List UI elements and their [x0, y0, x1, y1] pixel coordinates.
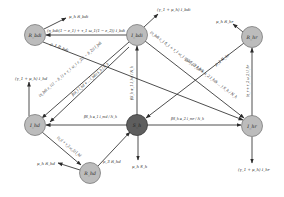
label-ihr-to-rhr: (η_r + τ_2 ω_2) I_hr	[245, 64, 250, 97]
label-sh-to-ihr: βS_h α_2 I_mr / N_h	[170, 116, 204, 121]
node-rbdi: R_bdi	[25, 25, 46, 46]
label-ibdi-out: (γ_1 + μ_h) I_bdi	[157, 7, 191, 12]
label-ihd-out: (γ_1 + μ_h) I_hd	[15, 76, 48, 81]
label-sh-to-ibdi-vert: βS_h α_1 I_hd / N_h	[129, 66, 134, 101]
node-rhr: R_hr	[242, 27, 263, 48]
node-sh: S_h	[127, 115, 148, 136]
label-sh-to-ihd: βS_h α_1 I_md / N_h	[83, 114, 117, 119]
edge-ibdi-to-ihr	[145, 41, 244, 118]
flow-diagram: R_bdi I_bdi R_hr I_hd S_h I_hr R_hd μ_h …	[0, 0, 284, 197]
node-ihd: I_hd	[25, 115, 46, 136]
label-ihr-out: (γ_1 + μ_h) I_hr	[238, 167, 271, 172]
label-sh-out: μ_h S_h	[132, 164, 148, 169]
edge-rhr-out	[233, 24, 243, 32]
edge-rhd-out	[58, 163, 80, 170]
label-rhd-to-sh: ρ_3 R_hd	[102, 159, 121, 164]
label-rhr-to-sh: ρ_2 R_hr	[213, 52, 231, 68]
label-ibdi-to-rbdi: (η_bdi(1 − ε_1) + τ_1 ω_1(1 − ε_2)) I_bd…	[47, 28, 126, 33]
node-ihr: I_hr	[242, 116, 263, 137]
label-rbdi-to-sh: ρ_1 R_bdi	[49, 41, 70, 53]
edge-ibdi-out	[144, 14, 158, 27]
label-rhr-out: μ_h R_hr	[216, 19, 235, 24]
label-rbdi-out: μ_h R_bdi	[69, 14, 89, 19]
label-rhd-out: μ_h R_hd	[37, 161, 56, 166]
node-ibdi: I_bdi	[127, 25, 148, 46]
node-rhd: R_hd	[80, 163, 101, 184]
edge-sh-to-ibdi-left	[50, 47, 129, 122]
label-ibdi-to-ihd: (η_bdi ε_1(1 − δ_1) + τ_1 ω_1 ε_2(1 − δ_…	[37, 40, 103, 98]
